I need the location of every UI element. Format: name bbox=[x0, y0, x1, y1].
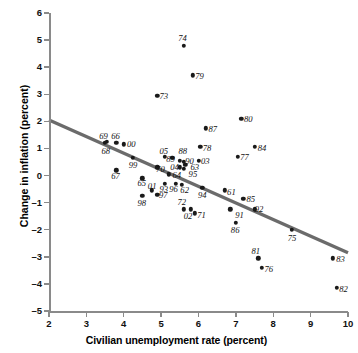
data-point-label: 87 bbox=[208, 124, 217, 133]
x-tick-mark bbox=[160, 312, 161, 317]
data-point-label: 76 bbox=[264, 265, 273, 274]
x-tick-mark bbox=[310, 312, 311, 317]
y-tick-label: 6 bbox=[24, 8, 42, 18]
data-point-label: 78 bbox=[203, 143, 212, 152]
data-point-label: 00 bbox=[127, 140, 136, 149]
data-point-label: 88 bbox=[179, 146, 188, 155]
x-tick-label: 8 bbox=[263, 319, 283, 329]
x-tick-label: 7 bbox=[226, 319, 246, 329]
y-tick-mark bbox=[44, 12, 49, 13]
x-tick-mark bbox=[235, 312, 236, 317]
y-tick-mark bbox=[44, 39, 49, 40]
x-tick-mark bbox=[347, 312, 348, 317]
x-tick-mark bbox=[86, 312, 87, 317]
y-tick-mark bbox=[44, 121, 49, 122]
data-point-label: 61 bbox=[227, 188, 236, 197]
data-point-label: 91 bbox=[235, 210, 244, 219]
data-point-label: 80 bbox=[244, 115, 253, 124]
data-point-label: 79 bbox=[195, 72, 204, 81]
y-tick-mark bbox=[44, 256, 49, 257]
data-point-label: 83 bbox=[336, 254, 345, 263]
data-point-label: 70 bbox=[156, 164, 165, 173]
y-axis-line bbox=[49, 13, 51, 312]
data-point-label: 71 bbox=[197, 211, 206, 220]
data-point-label: 62 bbox=[180, 185, 189, 194]
data-point-label: 04 bbox=[170, 162, 179, 171]
y-tick-mark bbox=[44, 148, 49, 149]
data-point-label: 01 bbox=[148, 182, 157, 191]
data-point-label: 86 bbox=[231, 226, 240, 235]
x-tick-label: 6 bbox=[189, 319, 209, 329]
x-tick-label: 9 bbox=[301, 319, 321, 329]
data-point-label: 97 bbox=[159, 191, 168, 200]
data-point-label: 92 bbox=[255, 205, 264, 214]
data-point-label: 98 bbox=[137, 198, 146, 207]
x-tick-mark bbox=[198, 312, 199, 317]
x-tick-mark bbox=[273, 312, 274, 317]
data-point-label: 84 bbox=[258, 143, 267, 152]
data-point-label: 67 bbox=[111, 172, 120, 181]
x-tick-label: 3 bbox=[76, 319, 96, 329]
data-point-label: 99 bbox=[129, 161, 138, 170]
data-point-label: 73 bbox=[159, 92, 168, 101]
data-point-label: 02 bbox=[184, 211, 193, 220]
data-point-label: 81 bbox=[251, 246, 260, 255]
data-point-label: 90 bbox=[185, 156, 194, 165]
y-tick-label: 5 bbox=[24, 35, 42, 45]
data-point-label: 65 bbox=[137, 179, 146, 188]
y-axis-title: Change in inflation (percent) bbox=[18, 46, 30, 266]
data-point-label: 03 bbox=[201, 156, 210, 165]
x-axis-title: Civilian unemployment rate (percent) bbox=[0, 334, 353, 346]
y-tick-mark bbox=[44, 229, 49, 230]
data-point-label: 77 bbox=[240, 153, 249, 162]
y-tick-mark bbox=[44, 202, 49, 203]
data-point-label: 72 bbox=[177, 198, 186, 207]
x-tick-label: 5 bbox=[151, 319, 171, 329]
x-tick-label: 4 bbox=[114, 319, 134, 329]
data-point-label: 94 bbox=[198, 190, 207, 199]
x-tick-mark bbox=[123, 312, 124, 317]
y-tick-mark bbox=[44, 175, 49, 176]
y-tick-mark bbox=[44, 66, 49, 67]
data-point-label: 05 bbox=[159, 147, 168, 156]
data-point-label: 69 bbox=[99, 131, 108, 140]
data-point-label: 85 bbox=[247, 195, 256, 204]
data-point-label: 68 bbox=[102, 147, 111, 156]
data-point-label: 96 bbox=[169, 184, 178, 193]
x-tick-label: 2 bbox=[39, 319, 59, 329]
data-point-label: 75 bbox=[288, 233, 297, 242]
y-tick-label: –4 bbox=[24, 279, 42, 289]
x-tick-label: 10 bbox=[338, 319, 358, 329]
data-point-label: 66 bbox=[111, 131, 120, 140]
data-point-label: 82 bbox=[339, 284, 348, 293]
data-point-label: 74 bbox=[178, 33, 187, 42]
y-tick-label: –5 bbox=[24, 306, 42, 316]
data-point-label: 64 bbox=[173, 171, 182, 180]
y-tick-mark bbox=[44, 283, 49, 284]
y-tick-mark bbox=[44, 94, 49, 95]
data-point-label: 95 bbox=[189, 170, 198, 179]
x-tick-mark bbox=[48, 312, 49, 317]
